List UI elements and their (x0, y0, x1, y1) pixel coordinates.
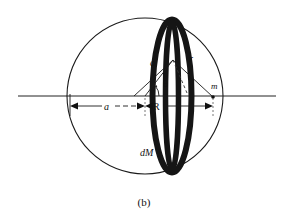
angle-arc-theta (156, 86, 160, 96)
label-dimension-R: R (153, 102, 160, 112)
dimension-a-arrow-right (137, 103, 145, 110)
label-radius-r: r (189, 54, 193, 64)
label-slant-a: a (150, 58, 155, 68)
dimension-R-arrow-left (145, 103, 153, 110)
figure-caption: (b) (0, 196, 288, 208)
dimension-R-arrow-right (205, 103, 213, 110)
dimension-a-arrow-left (70, 103, 78, 110)
figure-container: a θ r m dM a R (b) (0, 0, 288, 221)
label-point-mass-m: m (211, 82, 218, 91)
physics-diagram-svg (0, 0, 288, 221)
label-dimension-a: a (104, 102, 109, 112)
label-angle-theta: θ (163, 79, 168, 89)
label-mass-element-dM: dM (140, 148, 153, 158)
